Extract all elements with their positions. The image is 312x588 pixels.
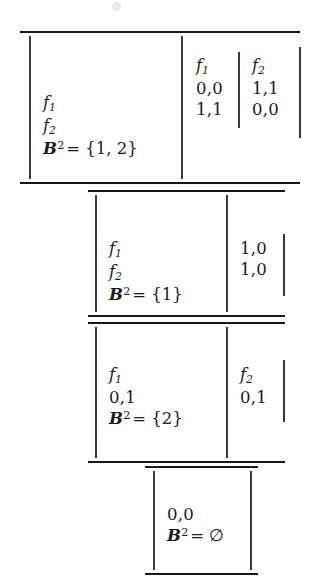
block-2-row-f2: f2 [109,261,185,284]
block-4-right-border [250,471,252,570]
block-2-center-divider [226,195,228,312]
block-2-left-border [95,195,97,312]
block-3-right-border [283,360,285,422]
block-1-matrix-column-divider [238,52,240,128]
block-1-col-1-cell-2: 1,1 [196,99,223,120]
block-4-belief-set: B2= ∅ [167,525,226,546]
block-3-top-rule [88,322,285,324]
block-4-bottom-rule [145,573,258,575]
block-1-row-f2: f2 [43,115,140,138]
block-1-col-1-cell-1: 0,0 [196,78,223,99]
nested-game-tables-figure: f1 f2 B2= {1, 2} f1 0,0 1,1 f2 1,1 0,0 [0,0,312,588]
block-2-belief-set: B2= {1} [109,284,185,305]
block-2-matrix-col-1: 1,0 1,0 [240,238,267,281]
block-4-top-rule [145,466,258,468]
block-3-bottom-rule [88,461,285,463]
block-2-col-1-cell-2: 1,0 [240,259,267,280]
block-1-center-divider [181,36,183,179]
block-1-belief-set: B2= {1, 2} [43,138,140,159]
block-1-bottom-rule [20,182,300,184]
block-1-left-border [29,36,31,179]
block-3-row-value: 0,1 [109,387,185,408]
block-4-cell: 0,0 B2= ∅ [167,504,226,547]
block-3-col-1-header: f2 [240,364,267,387]
block-2-right-border [283,234,285,296]
block-2-col-1-cell-1: 1,0 [240,238,267,259]
block-3-row-f1: f1 [109,364,185,387]
block-4-left-border [153,471,155,570]
block-3-left-cell: f1 0,1 B2= {2} [109,364,185,430]
scan-artifact-speck [112,2,121,11]
block-3-center-divider [226,327,228,458]
block-2-top-rule [88,190,285,192]
block-4-value: 0,0 [167,504,226,525]
block-2-bottom-rule [88,315,285,317]
block-2-row-f1: f1 [109,238,185,261]
block-1-col-2-header: f2 [252,55,279,78]
block-1-top-rule [20,31,300,33]
block-1-col-2-cell-2: 0,0 [252,99,279,120]
block-3-col-1-cell-1: 0,1 [240,387,267,408]
block-3-belief-set: B2= {2} [109,408,185,429]
block-3-matrix-col-1: f2 0,1 [240,364,267,408]
block-1-matrix-col-2: f2 1,1 0,0 [252,55,279,121]
block-1-right-border [299,47,301,138]
block-1-matrix-col-1: f1 0,0 1,1 [196,55,223,121]
block-1-left-cell: f1 f2 B2= {1, 2} [43,92,140,159]
block-3-left-border [95,327,97,458]
block-2-left-cell: f1 f2 B2= {1} [109,238,185,305]
block-1-row-f1: f1 [43,92,140,115]
block-1-col-2-cell-1: 1,1 [252,78,279,99]
block-1-col-1-header: f1 [196,55,223,78]
